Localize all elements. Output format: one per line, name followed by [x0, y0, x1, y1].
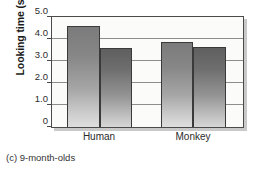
x-axis-category-labels: Human Monkey	[51, 131, 244, 145]
x-tick-label-human: Human	[83, 131, 115, 142]
y-axis-tick-labels: 5.0 4.0 3.0 2.0 1.0 0	[22, 11, 48, 127]
plot-area	[51, 16, 244, 128]
bar-chart-figure: Looking time (sec) 5.0 4.0 3.0 2.0 1.0 0…	[0, 0, 253, 171]
y-tick-label: 3.0	[22, 50, 48, 60]
bar-human-1	[67, 26, 100, 127]
y-tick-label: 5.0	[22, 6, 48, 16]
bar-human-2	[100, 48, 132, 127]
figure-caption: (c) 9-month-olds	[6, 152, 75, 163]
y-tick-label: 0	[22, 116, 48, 126]
y-tick-label: 1.0	[22, 94, 48, 104]
bar-monkey-2	[193, 47, 226, 127]
x-tick-label-monkey: Monkey	[175, 131, 210, 142]
bar-monkey-1	[161, 42, 193, 127]
y-tick-label: 2.0	[22, 72, 48, 82]
y-tick-label: 4.0	[22, 28, 48, 38]
plot-area-wrapper	[51, 16, 244, 128]
